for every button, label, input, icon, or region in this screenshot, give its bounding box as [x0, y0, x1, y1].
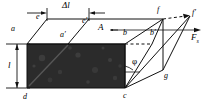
- label-force-Fs: Fs: [191, 33, 199, 44]
- label-vertex-d: d: [23, 93, 27, 101]
- edge-a-to-e: [27, 19, 47, 44]
- delta-l-arrow-left: [41, 11, 47, 15]
- label-vertex-b-prime: b′: [150, 29, 156, 37]
- force-subscript: s: [197, 38, 199, 44]
- label-vertex-g: g: [164, 72, 168, 80]
- length-l-arrow-bottom: [15, 82, 19, 88]
- block-front-face: [27, 44, 125, 88]
- delta-l-arrow-right: [89, 11, 95, 15]
- label-vertex-f: f: [157, 6, 159, 14]
- label-angle-phi: φ: [132, 57, 137, 66]
- label-vertex-b: b: [123, 29, 127, 37]
- label-vertex-f-prime: f′: [192, 9, 196, 17]
- shear-deformation-figure: Δl e e′ f f′ a a′ A b b′ Fs φ g l d c: [0, 0, 209, 108]
- dashed-f-to-f-prime: [163, 16, 186, 19]
- label-vertex-c: c: [123, 92, 127, 100]
- label-area-A: A: [98, 23, 104, 32]
- edge-f-prime-to-c: [125, 16, 190, 88]
- label-length-l: l: [8, 61, 11, 70]
- label-delta-l: Δl: [62, 1, 70, 10]
- figure-svg: [0, 0, 209, 108]
- angle-phi-arc: [125, 66, 133, 70]
- label-vertex-e: e: [36, 13, 40, 21]
- label-vertex-a: a: [11, 25, 15, 33]
- label-vertex-e-prime: e′: [82, 17, 87, 25]
- length-l-arrow-top: [15, 44, 19, 50]
- edge-f-prime-to-g: [163, 16, 190, 70]
- label-vertex-a-prime: a′: [60, 31, 66, 39]
